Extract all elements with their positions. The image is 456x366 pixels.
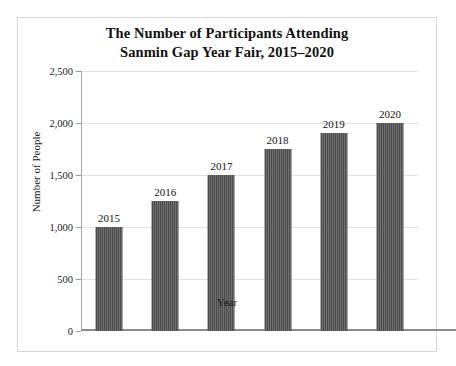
bar-slot: 2017 — [193, 71, 249, 331]
bar-value-label: 2016 — [154, 186, 176, 198]
bar[interactable] — [152, 201, 179, 331]
x-axis-label: Year — [18, 296, 436, 308]
chart-title: The Number of Participants Attending San… — [18, 24, 436, 62]
y-axis-tick-label: 0 — [68, 326, 73, 337]
y-axis-label: Number of People — [30, 112, 42, 232]
y-axis-tick-label: 2,000 — [49, 118, 73, 129]
chart-figure: The Number of Participants Attending San… — [17, 17, 437, 352]
y-axis-tick-label: 2,500 — [49, 66, 73, 77]
bar-value-label: 2018 — [267, 134, 289, 146]
y-axis-tick-label: 1,500 — [49, 170, 73, 181]
bar[interactable] — [96, 227, 123, 331]
y-axis-tick-label: 1,000 — [49, 222, 73, 233]
bar-value-label: 2015 — [98, 212, 120, 224]
bar-value-label: 2017 — [210, 160, 232, 172]
bar-slot: 2018 — [250, 71, 306, 331]
bar-series: 201520162017201820192020 — [81, 71, 418, 331]
bar-value-label: 2019 — [323, 118, 345, 130]
bar-slot: 2015 — [81, 71, 137, 331]
y-axis-tick-mark — [76, 331, 81, 332]
plot-area: 05001,0001,5002,0002,500 201520162017201… — [81, 71, 418, 331]
bar-slot: 2016 — [137, 71, 193, 331]
chart-title-line-1: The Number of Participants Attending — [18, 24, 436, 43]
chart-title-line-2: Sanmin Gap Year Fair, 2015–2020 — [18, 43, 436, 62]
y-axis-tick-label: 500 — [57, 274, 73, 285]
bar-slot: 2020 — [362, 71, 418, 331]
bar-slot: 2019 — [306, 71, 362, 331]
bar-value-label: 2020 — [379, 108, 401, 120]
